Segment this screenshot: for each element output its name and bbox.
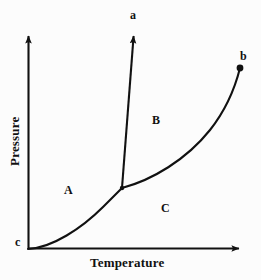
point-label-b: b [240, 50, 247, 62]
critical-point-marker [237, 65, 244, 72]
triple-point-marker [120, 186, 124, 190]
fusion-curve [122, 36, 134, 188]
region-label-a: A [64, 184, 73, 196]
x-axis-title: Temperature [90, 256, 164, 269]
region-label-b: B [152, 114, 160, 126]
vaporization-curve [122, 68, 240, 188]
phase-diagram-canvas [0, 0, 261, 280]
phase-diagram-figure: A B C a b c Temperature Pressure [0, 0, 261, 280]
sublimation-curve [28, 188, 122, 249]
y-axis-title: Pressure [8, 117, 21, 167]
region-label-c: C [161, 202, 170, 214]
point-label-c: c [15, 236, 20, 248]
point-label-a: a [130, 9, 136, 21]
